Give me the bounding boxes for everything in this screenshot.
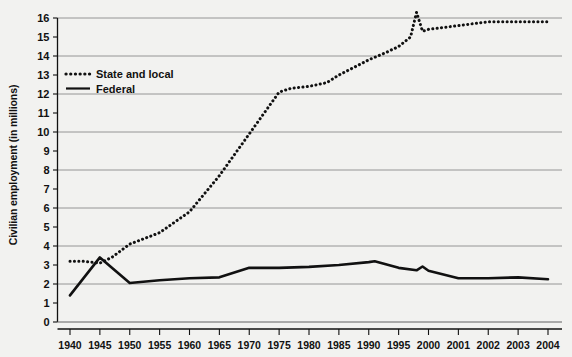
chart-container: Civilian employment (in millions) 012345… <box>0 0 572 357</box>
x-tick-label-1975: 1975 <box>267 339 291 351</box>
x-tick-label-1940: 1940 <box>58 339 82 351</box>
x-tick-label-2002: 2002 <box>477 339 501 351</box>
x-tick-label-1985: 1985 <box>327 339 351 351</box>
line-chart-plot: 012345678910111213141516 194019451950195… <box>0 0 572 357</box>
legend-label-federal: Federal <box>96 83 135 95</box>
y-tick-label-1: 1 <box>43 297 49 309</box>
y-tick-label-3: 3 <box>43 259 49 271</box>
x-tick-label-2003: 2003 <box>506 339 530 351</box>
y-tick-label-13: 13 <box>37 69 49 81</box>
y-tick-label-16: 16 <box>37 12 49 24</box>
y-tick-label-2: 2 <box>43 278 49 290</box>
gridlines <box>58 18 563 322</box>
y-tick-label-0: 0 <box>43 316 49 328</box>
x-tick-label-1990: 1990 <box>357 339 381 351</box>
y-tick-label-4: 4 <box>43 240 50 252</box>
x-tick-label-1955: 1955 <box>148 339 172 351</box>
y-tick-label-7: 7 <box>43 183 49 195</box>
x-tick-label-2004: 2004 <box>536 339 560 351</box>
legend-label-state-and-local: State and local <box>96 68 174 80</box>
x-tick-label-1970: 1970 <box>238 339 262 351</box>
series-line-federal <box>70 257 548 295</box>
y-tick-label-8: 8 <box>43 164 49 176</box>
y-tick-label-6: 6 <box>43 202 49 214</box>
series-line-state-and-local <box>70 12 548 263</box>
x-tick-label-2001: 2001 <box>447 339 471 351</box>
y-tick-label-15: 15 <box>37 31 49 43</box>
y-tick-label-12: 12 <box>37 88 49 100</box>
y-axis-ticks: 012345678910111213141516 <box>37 12 57 328</box>
y-tick-label-9: 9 <box>43 145 49 157</box>
y-tick-label-10: 10 <box>37 126 49 138</box>
data-series <box>70 12 548 295</box>
x-tick-label-1945: 1945 <box>88 339 112 351</box>
x-tick-label-1995: 1995 <box>387 339 411 351</box>
x-tick-label-2000: 2000 <box>417 339 441 351</box>
x-tick-label-1950: 1950 <box>118 339 142 351</box>
x-tick-label-1980: 1980 <box>297 339 321 351</box>
x-tick-label-1960: 1960 <box>178 339 202 351</box>
x-axis-ticks: 1940194519501955196019651970197519801985… <box>58 329 560 351</box>
y-axis-title: Civilian employment (in millions) <box>2 0 24 330</box>
y-tick-label-14: 14 <box>37 50 50 62</box>
y-axis-title-text: Civilian employment (in millions) <box>7 85 19 246</box>
y-tick-label-5: 5 <box>43 221 49 233</box>
y-tick-label-11: 11 <box>38 107 50 119</box>
x-tick-label-1965: 1965 <box>208 339 232 351</box>
chart-legend: State and localFederal <box>66 68 174 95</box>
